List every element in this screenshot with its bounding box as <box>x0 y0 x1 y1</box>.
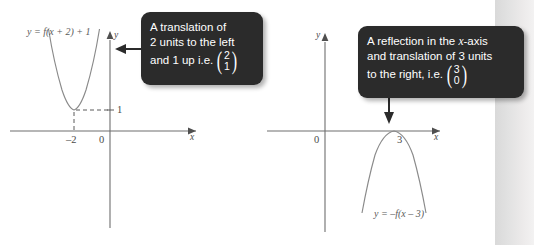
right-tick-zero: 0 <box>314 134 319 145</box>
right-curve-label: y = –f(x – 3) <box>374 208 424 219</box>
callout-right-body: A reflection in the x-axis and translati… <box>367 34 524 86</box>
callout-right-line-1: A reflection in the x-axis <box>367 34 524 49</box>
callout-right-line-1-post: -axis <box>464 35 488 47</box>
vector-values: 30 <box>454 64 460 85</box>
right-x-axis <box>267 128 440 135</box>
right-tick-three: 3 <box>397 134 402 145</box>
right-y-axis <box>322 33 329 232</box>
right-curve-label-text: y = –f(x – 3) <box>374 208 424 219</box>
callout-right-line-3-text: to the right, i.e. <box>367 68 443 80</box>
callout-right-line-1-pre: A reflection in the <box>367 35 458 47</box>
right-y-axis-label: y <box>316 30 320 40</box>
callout-right-line-2: and translation of 3 units <box>367 49 524 64</box>
arrow-down-icon <box>384 98 394 124</box>
vector-bottom-value: 0 <box>454 75 460 86</box>
callout-right-reflection: A reflection in the x-axis and translati… <box>358 26 524 98</box>
right-x-axis-label: x <box>434 132 438 142</box>
figure-canvas: y = f(x + 2) + 1 y x –2 0 1 A translatio… <box>0 0 534 245</box>
callout-right-line-3: to the right, i.e.(30) <box>367 64 524 86</box>
vector-paren-open: ( <box>447 64 452 86</box>
vector-paren-close: ) <box>461 64 466 86</box>
callout-right-vector: (30) <box>445 64 468 86</box>
right-parabola-curve <box>362 131 426 213</box>
